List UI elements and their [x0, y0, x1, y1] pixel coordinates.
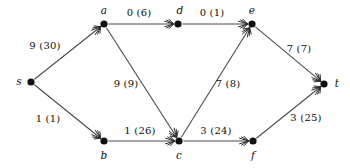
edge-s-to-b — [34, 85, 100, 138]
flow-network-figure: sabdceft9 (30)1 (1)0 (6)9 (9)0 (1)1 (26)… — [0, 0, 350, 168]
edge-label-s-a: 9 (30) — [29, 40, 60, 51]
arrowhead-stroke — [94, 138, 100, 139]
node-label-f: f — [251, 149, 255, 161]
node-label-c: c — [176, 149, 182, 161]
arrowhead-stroke — [320, 87, 321, 93]
node-dot-a[interactable] — [100, 20, 107, 27]
node-dot-t[interactable] — [320, 80, 327, 87]
edge-label-a-c: 9 (9) — [114, 78, 139, 89]
nodes-layer — [27, 20, 327, 144]
arrowhead-stroke — [100, 27, 101, 33]
edge-label-c-f: 3 (24) — [200, 125, 231, 136]
edge-label-c-e: 7 (8) — [216, 78, 241, 89]
node-dot-b[interactable] — [100, 137, 107, 144]
edge-label-a-d: 0 (6) — [127, 7, 152, 18]
graph-canvas — [0, 0, 350, 168]
edge-label-b-c: 1 (26) — [124, 125, 155, 136]
edge-label-s-b: 1 (1) — [36, 113, 61, 124]
node-dot-c[interactable] — [175, 137, 182, 144]
edge-label-e-t: 7 (7) — [287, 43, 312, 54]
node-dot-e[interactable] — [248, 20, 255, 27]
node-label-d: d — [177, 4, 184, 16]
node-label-t: t — [335, 77, 339, 89]
arrowhead-stroke — [100, 132, 101, 138]
edge-label-f-t: 3 (25) — [290, 112, 321, 123]
arrowhead-stroke — [314, 86, 320, 87]
edge-e-to-t — [255, 27, 320, 81]
edge-label-d-e: 0 (1) — [200, 7, 225, 18]
node-label-e: e — [249, 4, 255, 16]
edge-s-to-a — [34, 27, 100, 80]
node-dot-s[interactable] — [27, 78, 34, 85]
node-dot-d[interactable] — [174, 20, 181, 27]
node-label-b: b — [101, 149, 108, 161]
edges-layer — [34, 24, 320, 141]
node-label-s: s — [16, 75, 22, 87]
arrowhead-stroke — [94, 26, 100, 27]
node-label-a: a — [101, 4, 107, 16]
arrowhead-stroke — [314, 81, 320, 82]
node-dot-f[interactable] — [249, 137, 256, 144]
